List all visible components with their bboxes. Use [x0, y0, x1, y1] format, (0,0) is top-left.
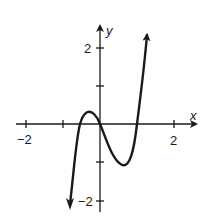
y-tick-label-2: 2 — [84, 41, 91, 56]
x-axis-label: x — [189, 108, 197, 123]
cubic-curve — [70, 35, 147, 204]
x-tick-label-2: 2 — [170, 133, 177, 148]
y-tick-label-neg2: −2 — [78, 194, 93, 209]
x-tick-label-neg2: −2 — [17, 132, 32, 147]
y-axis-label: y — [105, 23, 114, 38]
cubic-function-graph: −2 2 2 −2 x y — [0, 0, 206, 216]
